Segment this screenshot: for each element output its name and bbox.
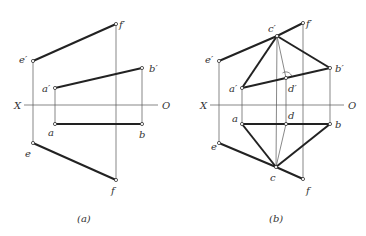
label-f-a: f	[110, 185, 117, 196]
segment-a-prime-b-prime-a	[55, 68, 142, 88]
label-e-prime-b: e′	[205, 54, 214, 65]
label-f-prime-b: f′	[305, 18, 313, 29]
label-b-b: b	[335, 119, 341, 130]
label-c-prime-b: c′	[268, 23, 277, 34]
point-b-prime-b	[328, 66, 331, 69]
point-d-prime-b	[284, 76, 287, 79]
point-e-prime-a	[31, 59, 34, 62]
segment-ef-a	[33, 143, 116, 180]
figure-a: X O e′ f′ a′ b′ a b e f (a)	[13, 19, 170, 224]
point-f-b	[301, 177, 304, 180]
segment-e-prime-f-prime-a	[33, 24, 116, 61]
point-b-prime-a	[140, 66, 143, 69]
segment-e-prime-f-prime-b	[219, 23, 303, 61]
point-c-prime-b	[275, 34, 278, 37]
label-a-prime-b: a′	[229, 83, 238, 94]
point-a-a	[53, 122, 56, 125]
label-b-a: b	[139, 129, 145, 140]
label-a-prime-a: a′	[42, 83, 51, 94]
right-angle-mark	[283, 72, 292, 77]
label-d-b: d	[288, 110, 294, 121]
caption-a: (a)	[77, 213, 91, 224]
point-b-b	[328, 122, 331, 125]
point-f-a	[114, 178, 117, 181]
caption-b: (b)	[269, 213, 283, 224]
point-c-b	[274, 165, 277, 168]
label-e-prime-a: e′	[19, 54, 28, 65]
axis-label-o-b: O	[348, 100, 356, 111]
label-d-prime-b: d′	[288, 83, 297, 94]
label-a-b: a	[232, 113, 238, 124]
label-e-a: e	[25, 148, 31, 159]
projection-diagram: X O e′ f′ a′ b′ a b e f (a)	[0, 0, 366, 236]
axis-label-o-a: O	[162, 100, 170, 111]
figure-b: X O e′ f′ c′ a′ b′ d′ a d b e c f (b)	[199, 18, 356, 224]
point-d-b	[284, 122, 287, 125]
label-f-b: f	[305, 185, 312, 196]
projector-c-b	[276, 36, 277, 167]
label-c-b: c	[270, 172, 276, 183]
point-f-prime-b	[301, 21, 304, 24]
label-e-b: e	[211, 141, 217, 152]
point-a-prime-b	[240, 86, 243, 89]
label-a-a: a	[48, 127, 54, 138]
axis-label-x-a: X	[13, 100, 22, 111]
point-e-prime-b	[217, 59, 220, 62]
point-f-prime-a	[114, 22, 117, 25]
point-a-b	[240, 122, 243, 125]
segment-c-prime-b-prime-b	[277, 36, 330, 68]
point-e-b	[217, 141, 220, 144]
axis-label-x-b: X	[199, 100, 208, 111]
point-e-a	[31, 141, 34, 144]
label-f-prime-a: f′	[118, 19, 126, 30]
label-b-prime-a: b′	[149, 63, 158, 74]
point-a-prime-a	[53, 86, 56, 89]
label-b-prime-b: b′	[335, 63, 344, 74]
point-b-a	[140, 122, 143, 125]
